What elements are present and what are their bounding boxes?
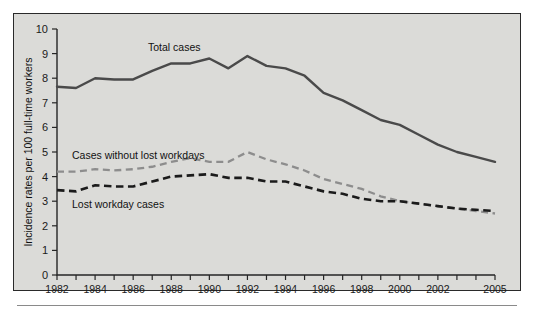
y-tick-label-0: 0	[42, 269, 48, 281]
y-tick-label-1: 1	[42, 244, 48, 256]
x-tick-label-1986: 1986	[121, 283, 145, 295]
figure-root: 012345678910 198219841986198819901992199…	[0, 0, 534, 320]
x-tick-label-2000: 2000	[388, 283, 412, 295]
x-tick-label-group: 1982198419861988199019921994199619982000…	[45, 283, 507, 295]
series-label-lost-workday-cases: Lost workday cases	[72, 198, 164, 210]
series-label-total-cases: Total cases	[148, 41, 201, 53]
y-tick-label-group: 012345678910	[36, 23, 48, 281]
y-axis-title: Incidence rates per 100 full-time worker…	[22, 57, 34, 246]
y-tick-label-8: 8	[42, 72, 48, 84]
y-tick-label-2: 2	[42, 220, 48, 232]
y-tick-label-10: 10	[36, 23, 48, 35]
x-tick-label-1984: 1984	[83, 283, 107, 295]
y-tick-label-9: 9	[42, 48, 48, 60]
x-tick-label-1998: 1998	[350, 283, 374, 295]
y-tick-label-7: 7	[42, 97, 48, 109]
series-label-cases-without-lost-workdays: Cases without lost workdays	[72, 149, 204, 161]
x-tick-label-1996: 1996	[312, 283, 336, 295]
x-tick-label-1992: 1992	[236, 283, 260, 295]
series-path-total-cases	[57, 56, 495, 162]
incidence-rate-line-chart: 012345678910 198219841986198819901992199…	[0, 0, 534, 320]
y-tick-label-5: 5	[42, 146, 48, 158]
x-tick-label-1994: 1994	[274, 283, 298, 295]
x-tick-label-2002: 2002	[426, 283, 450, 295]
x-tick-label-1982: 1982	[45, 283, 69, 295]
x-tick-label-1988: 1988	[160, 283, 184, 295]
series-path-group	[57, 56, 495, 213]
y-tick-label-3: 3	[42, 195, 48, 207]
y-tick-label-6: 6	[42, 121, 48, 133]
x-tick-label-2005: 2005	[483, 283, 507, 295]
x-tick-label-1990: 1990	[198, 283, 222, 295]
y-tick-label-4: 4	[42, 171, 48, 183]
